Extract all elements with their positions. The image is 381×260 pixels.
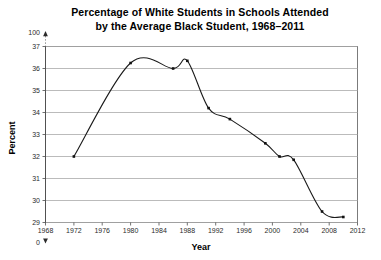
y-tick-label-34: 34 xyxy=(32,109,40,116)
line-chart-plot: 37 36 35 34 33 32 31 30 29 100 0 Percent xyxy=(0,0,381,260)
x-tick-label-1976: 1976 xyxy=(94,227,110,234)
series-markers xyxy=(73,60,345,219)
y-tick-label-30: 30 xyxy=(32,197,40,204)
data-point-marker xyxy=(207,107,210,110)
data-point-marker xyxy=(129,62,132,65)
x-tick-label-2012: 2012 xyxy=(350,227,366,234)
gridlines xyxy=(46,47,358,223)
x-tick-label-2000: 2000 xyxy=(265,227,281,234)
x-tick-label-1988: 1988 xyxy=(180,227,196,234)
data-point-marker xyxy=(278,155,281,158)
chart-figure: Percentage of White Students in Schools … xyxy=(0,0,381,260)
y-axis-break-arrow-icon xyxy=(43,31,48,36)
y-tick-label-33: 33 xyxy=(32,131,40,138)
data-point-marker xyxy=(172,67,175,70)
y-axis-top-label: 100 xyxy=(28,29,40,36)
x-tick-label-2008: 2008 xyxy=(321,227,337,234)
y-tick-label-37: 37 xyxy=(32,43,40,50)
y-tick-label-32: 32 xyxy=(32,153,40,160)
data-point-marker xyxy=(186,60,189,63)
x-tick-label-1984: 1984 xyxy=(151,227,167,234)
data-point-marker xyxy=(229,118,232,121)
x-tick-label-1996: 1996 xyxy=(236,227,252,234)
x-axis-title: Year xyxy=(191,242,211,252)
x-tick-label-1968: 1968 xyxy=(38,227,54,234)
data-point-marker xyxy=(292,159,295,162)
y-tick-label-35: 35 xyxy=(32,87,40,94)
data-point-marker xyxy=(264,142,267,145)
data-point-marker xyxy=(321,210,324,213)
x-tick-label-2004: 2004 xyxy=(293,227,309,234)
data-point-marker xyxy=(342,216,345,219)
series-line-percent-white xyxy=(74,58,343,218)
data-point-marker xyxy=(73,155,76,158)
y-tick-label-31: 31 xyxy=(32,175,40,182)
y-axis-zero-label: 0 xyxy=(36,239,40,246)
x-tick-label-1980: 1980 xyxy=(123,227,139,234)
x-tick-label-1972: 1972 xyxy=(66,227,82,234)
y-axis-title: Percent xyxy=(7,121,17,154)
x-axis-break-arrow-icon xyxy=(43,239,48,244)
x-tick-label-1992: 1992 xyxy=(208,227,224,234)
y-tick-label-36: 36 xyxy=(32,65,40,72)
y-tick-label-29: 29 xyxy=(32,219,40,226)
